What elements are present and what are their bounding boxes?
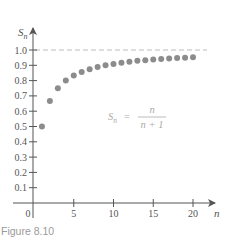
data-point xyxy=(103,62,109,68)
data-point xyxy=(150,57,156,63)
data-point xyxy=(182,55,188,61)
data-point xyxy=(87,66,93,72)
formula-denominator-text: n + 1 xyxy=(141,119,164,130)
data-point xyxy=(134,58,140,64)
y-tick-label: 0.4 xyxy=(15,136,28,147)
data-point xyxy=(126,59,132,65)
data-point xyxy=(111,61,117,67)
data-point xyxy=(95,64,101,70)
y-axis-label-sub: n xyxy=(24,32,28,41)
svg-text:Sn: Sn xyxy=(108,111,117,125)
x-tick-label: 10 xyxy=(109,208,119,219)
data-point xyxy=(55,85,61,91)
data-point xyxy=(174,55,180,61)
y-tick-label: 0.8 xyxy=(15,75,28,86)
y-tick-label: 0.1 xyxy=(15,182,28,193)
chart: 0.10.20.30.40.50.60.70.80.91.051015200 n… xyxy=(0,0,231,242)
x-axis-label: n xyxy=(214,207,220,219)
data-point xyxy=(71,73,77,79)
y-tick-label: 0.9 xyxy=(15,60,28,71)
data-point xyxy=(142,57,148,63)
axis-ticks: 0.10.20.30.40.50.60.70.80.91.051015200 xyxy=(15,45,199,220)
formula-denominator: n + 1 xyxy=(141,119,164,130)
formula-equals: = xyxy=(124,111,130,122)
y-tick-label: 0.2 xyxy=(15,167,28,178)
y-tick-label: 0.5 xyxy=(15,121,28,132)
formula: Sn = n n + 1 xyxy=(108,104,166,130)
data-point xyxy=(79,69,85,75)
x-tick-label: 5 xyxy=(71,208,76,219)
y-tick-label: 0.7 xyxy=(15,90,28,101)
formula-numerator: n xyxy=(149,104,154,115)
axis-labels: nSn xyxy=(18,26,220,219)
data-point xyxy=(158,56,164,62)
data-point xyxy=(47,98,53,104)
data-point xyxy=(118,60,124,66)
x-tick-label: 20 xyxy=(188,208,198,219)
data-point xyxy=(63,78,69,84)
origin-label: 0 xyxy=(26,208,31,219)
data-point xyxy=(166,56,172,62)
data-point xyxy=(190,54,196,60)
y-tick-label: 0.3 xyxy=(15,152,28,163)
y-tick-label: 0.6 xyxy=(15,106,28,117)
y-axis-label: Sn xyxy=(18,26,28,41)
y-tick-label: 1.0 xyxy=(15,45,28,56)
data-point xyxy=(39,124,45,130)
data-points xyxy=(39,54,196,129)
x-tick-label: 15 xyxy=(148,208,158,219)
formula-lhs-sub: n xyxy=(113,116,117,125)
figure-caption: Figure 8.10 xyxy=(1,225,54,237)
